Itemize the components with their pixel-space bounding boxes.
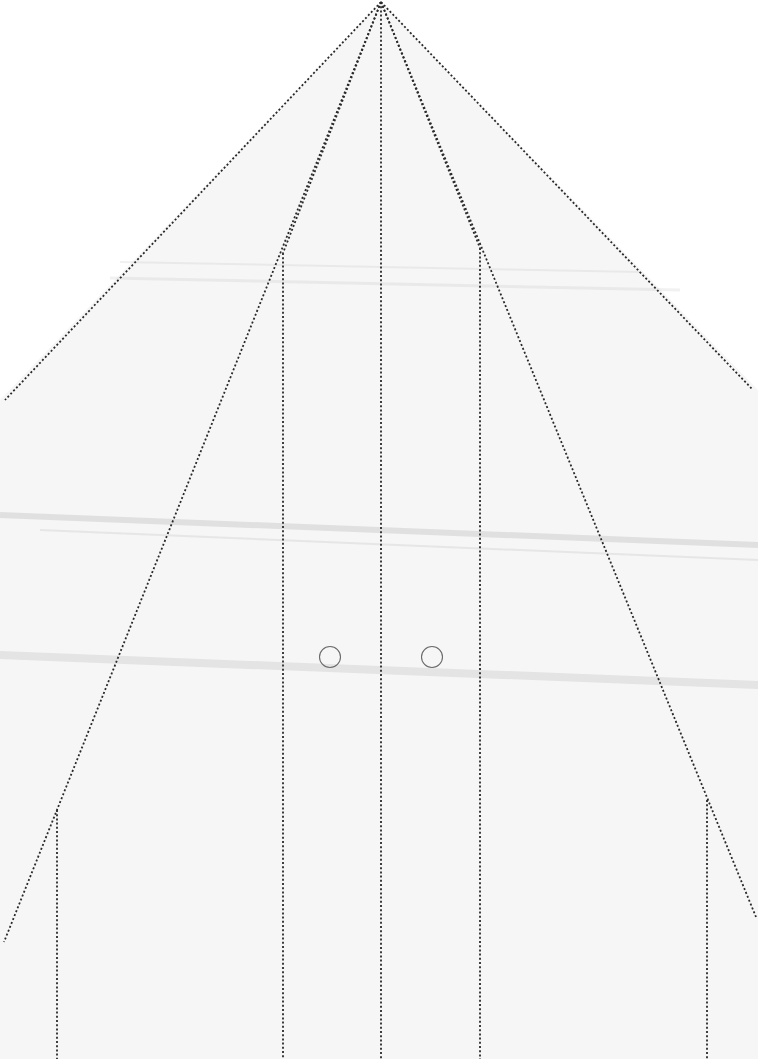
folding-template-sheet <box>0 0 758 1059</box>
template-drawing <box>0 0 758 1059</box>
